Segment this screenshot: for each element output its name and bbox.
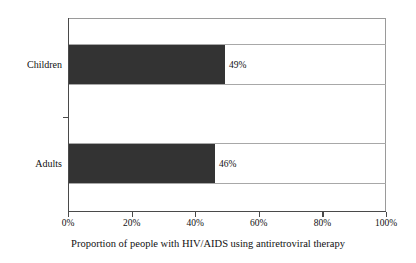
x-axis-label-20: 20% — [123, 219, 140, 229]
x-axis-title: Proportion of people with HIV/AIDS using… — [0, 238, 416, 249]
gridline-2 — [69, 84, 386, 85]
gridline-4 — [69, 183, 386, 184]
bar-adults[interactable] — [69, 144, 215, 183]
x-axis-tick-0 — [68, 212, 69, 217]
value-label-children: 49% — [229, 61, 246, 71]
plot-border-top — [69, 18, 386, 19]
x-axis-tick-40 — [195, 212, 196, 217]
x-axis-tick-100 — [386, 212, 387, 217]
plot-area — [68, 18, 386, 212]
x-axis-label-100: 100% — [375, 219, 397, 229]
y-axis-tick — [63, 117, 69, 118]
x-axis-tick-80 — [322, 212, 323, 217]
x-axis-label-60: 60% — [250, 219, 267, 229]
x-axis-label-0: 0% — [62, 219, 75, 229]
category-label-adults: Adults — [0, 158, 62, 169]
bar-children[interactable] — [69, 45, 225, 84]
category-label-children: Children — [0, 59, 62, 70]
value-label-adults: 46% — [219, 160, 236, 170]
x-axis-label-80: 80% — [314, 219, 331, 229]
x-axis-label-40: 40% — [186, 219, 203, 229]
x-axis-tick-20 — [132, 212, 133, 217]
x-axis-tick-60 — [259, 212, 260, 217]
chart-screenshot: 49% 46% Children Adults 0% 20% 40% 60% 8… — [0, 0, 416, 263]
